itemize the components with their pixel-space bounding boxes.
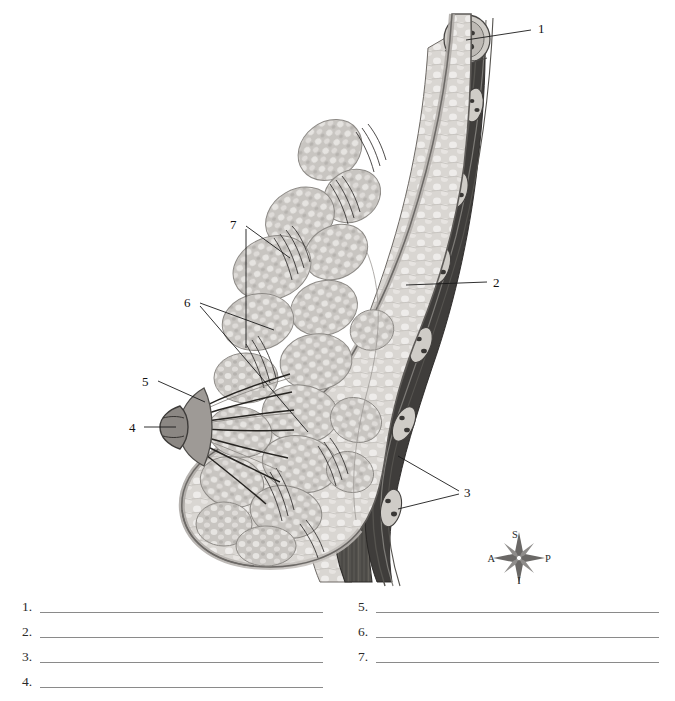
answer-row: 6. — [358, 615, 675, 640]
answer-row: 1. — [22, 590, 342, 615]
compass-inferior-label: I — [517, 575, 521, 586]
answer-number: 1. — [22, 600, 40, 616]
answer-input-2[interactable] — [40, 637, 323, 638]
answer-column-left: 1. 2. 3. 4. — [22, 590, 342, 690]
answer-number: 5. — [358, 600, 376, 616]
answer-row: 3. — [22, 640, 342, 665]
answer-row: 4. — [22, 665, 342, 690]
callout-3-number: 3 — [464, 485, 471, 500]
answer-input-6[interactable] — [376, 637, 659, 638]
answer-number: 2. — [22, 625, 40, 641]
compass-superior-label: S — [512, 529, 518, 540]
compass-anterior-label: A — [487, 553, 495, 564]
answer-input-3[interactable] — [40, 662, 323, 663]
breast-anatomy-figure: 1 2 3 4 5 6 7 — [0, 0, 675, 590]
answer-number: 6. — [358, 625, 376, 641]
answer-number: 4. — [22, 675, 40, 691]
answer-row: 5. — [358, 590, 675, 615]
answer-lines: 1. 2. 3. 4. 5. 6. 7. — [0, 590, 675, 701]
answer-input-5[interactable] — [376, 612, 659, 613]
answer-row: 7. — [358, 640, 675, 665]
callout-7-number: 7 — [230, 217, 237, 232]
answer-column-right: 5. 6. 7. — [358, 590, 675, 665]
compass-posterior-label: P — [545, 553, 551, 564]
answer-input-7[interactable] — [376, 662, 659, 663]
answer-input-4[interactable] — [40, 687, 323, 688]
callout-6-number: 6 — [184, 295, 191, 310]
answer-number: 3. — [22, 650, 40, 666]
callout-5-number: 5 — [142, 374, 149, 389]
callout-2-number: 2 — [493, 275, 500, 290]
answer-row: 2. — [22, 615, 342, 640]
answer-number: 7. — [358, 650, 376, 666]
callout-1-number: 1 — [538, 21, 545, 36]
answer-input-1[interactable] — [40, 612, 323, 613]
callout-4-number: 4 — [129, 420, 136, 435]
